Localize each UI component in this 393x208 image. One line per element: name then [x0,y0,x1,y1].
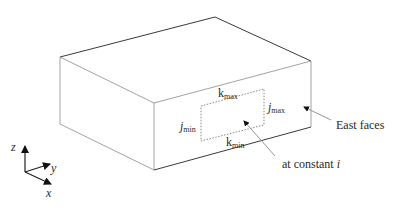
y-axis-label: y [50,161,57,175]
label-j-max: jmax [266,100,285,115]
z-axis-label: z [10,140,16,154]
x-axis-label: x [45,186,52,200]
box-bottom-left-edge [60,124,154,170]
box-top-left-edge [60,57,154,103]
label-k-min: kmin [226,135,244,150]
x-axis-arrow [25,172,51,184]
label-j-min: jmin [178,119,196,134]
y-axis-arrow [25,164,50,172]
axis-triad: z y x [10,140,57,200]
label-k-max: kmax [218,86,238,101]
east-faces-label: East faces [336,118,385,132]
box [60,17,311,170]
box-domain-diagram: kmax kmin jmin jmax East faces at consta… [0,0,393,208]
constant-i-label: at constant i [282,157,340,171]
box-top-back-edge [60,17,311,61]
east-faces-leader-arrow [304,107,331,120]
